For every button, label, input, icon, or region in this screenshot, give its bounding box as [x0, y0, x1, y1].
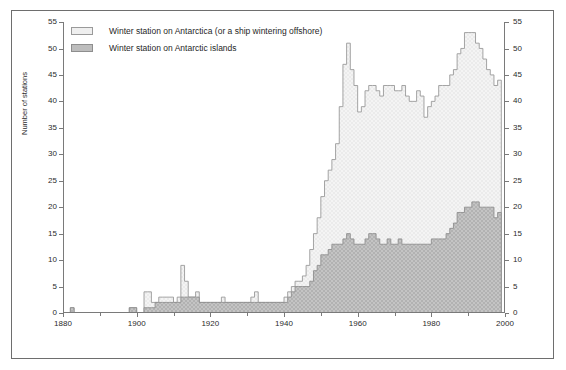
y-label-left-10: 10 — [48, 256, 57, 264]
y-label-left-5: 5 — [53, 283, 57, 291]
stacked-area-series — [63, 22, 505, 313]
y-tick-right-45 — [505, 75, 509, 76]
y-label-right-55: 55 — [513, 18, 522, 26]
x-minor-tick-1990 — [468, 313, 469, 316]
y-label-left-20: 20 — [48, 203, 57, 211]
x-label-1900: 1900 — [123, 320, 151, 328]
x-minor-tick-1950 — [321, 313, 322, 316]
y-label-left-35: 35 — [48, 124, 57, 132]
y-label-right-45: 45 — [513, 71, 522, 79]
y-tick-left-45 — [59, 75, 63, 76]
y-label-left-45: 45 — [48, 71, 57, 79]
legend-label-islands: Winter station on Antarctic islands — [109, 43, 237, 53]
y-label-left-0: 0 — [53, 309, 57, 317]
x-label-1880: 1880 — [49, 320, 77, 328]
y-tick-left-50 — [59, 49, 63, 50]
y-tick-left-10 — [59, 260, 63, 261]
legend-item-antarctica: Winter station on Antarctica (or a ship … — [71, 24, 401, 38]
x-minor-tick-1910 — [174, 313, 175, 316]
y-tick-left-15 — [59, 234, 63, 235]
y-label-left-40: 40 — [48, 97, 57, 105]
chart-figure: Number of stations — [0, 0, 566, 370]
x-tick-1880 — [63, 313, 64, 317]
y-label-left-55: 55 — [48, 18, 57, 26]
x-tick-1960 — [358, 313, 359, 317]
x-label-1920: 1920 — [196, 320, 224, 328]
x-label-1980: 1980 — [417, 320, 445, 328]
y-tick-right-30 — [505, 154, 509, 155]
legend-swatch-antarctica — [71, 27, 93, 35]
y-tick-left-55 — [59, 22, 63, 23]
x-tick-1920 — [210, 313, 211, 317]
x-tick-1980 — [431, 313, 432, 317]
y-label-right-15: 15 — [513, 230, 522, 238]
legend: Winter station on Antarctica (or a ship … — [71, 24, 401, 58]
y-tick-right-55 — [505, 22, 509, 23]
y-axis-right-line — [504, 22, 505, 313]
legend-item-islands: Winter station on Antarctic islands — [71, 41, 401, 55]
y-label-right-40: 40 — [513, 97, 522, 105]
y-tick-right-25 — [505, 181, 509, 182]
x-minor-tick-1970 — [395, 313, 396, 316]
y-tick-left-30 — [59, 154, 63, 155]
y-axis-title: Number of stations — [20, 72, 29, 135]
legend-swatch-islands — [71, 44, 93, 52]
y-tick-right-15 — [505, 234, 509, 235]
y-tick-left-20 — [59, 207, 63, 208]
y-tick-right-50 — [505, 49, 509, 50]
y-label-right-30: 30 — [513, 150, 522, 158]
y-tick-left-25 — [59, 181, 63, 182]
x-minor-tick-1890 — [100, 313, 101, 316]
x-minor-tick-1930 — [247, 313, 248, 316]
y-label-right-0: 0 — [513, 309, 517, 317]
y-tick-left-40 — [59, 101, 63, 102]
x-label-2000: 2000 — [491, 320, 519, 328]
x-tick-2000 — [505, 313, 506, 317]
y-label-left-50: 50 — [48, 45, 57, 53]
y-tick-right-5 — [505, 287, 509, 288]
y-tick-right-10 — [505, 260, 509, 261]
plot-surface — [63, 22, 505, 313]
y-label-left-15: 15 — [48, 230, 57, 238]
y-label-right-35: 35 — [513, 124, 522, 132]
y-axis-left-line — [63, 22, 64, 313]
y-tick-left-35 — [59, 128, 63, 129]
y-label-right-10: 10 — [513, 256, 522, 264]
y-tick-right-40 — [505, 101, 509, 102]
y-label-left-30: 30 — [48, 150, 57, 158]
plot-area: 0510152025303540455055051015202530354045… — [63, 22, 505, 313]
x-tick-1900 — [137, 313, 138, 317]
y-label-right-5: 5 — [513, 283, 517, 291]
y-tick-left-5 — [59, 287, 63, 288]
x-tick-1940 — [284, 313, 285, 317]
x-label-1960: 1960 — [344, 320, 372, 328]
y-label-left-25: 25 — [48, 177, 57, 185]
y-label-right-20: 20 — [513, 203, 522, 211]
y-tick-right-20 — [505, 207, 509, 208]
y-tick-right-35 — [505, 128, 509, 129]
x-label-1940: 1940 — [270, 320, 298, 328]
y-label-right-25: 25 — [513, 177, 522, 185]
legend-label-antarctica: Winter station on Antarctica (or a ship … — [109, 26, 322, 36]
y-label-right-50: 50 — [513, 45, 522, 53]
